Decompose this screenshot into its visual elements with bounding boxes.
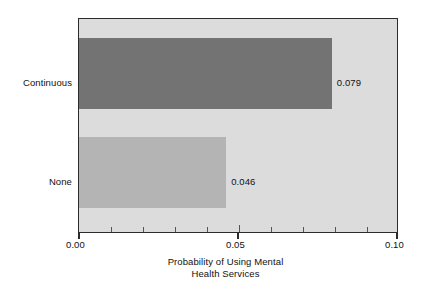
x-tick-label-2: 0.10 <box>385 239 404 250</box>
bar-chart: Continuous None 0.079 0.046 0.00 0.05 0.… <box>0 0 426 290</box>
x-axis-title: Probability of Using Mental Health Servi… <box>113 256 338 279</box>
x-axis-title-line2: Health Services <box>113 268 338 280</box>
x-tick-label-0: 0.00 <box>66 239 85 250</box>
x-axis-inner-ticks <box>79 226 399 232</box>
y-axis-label-none: None <box>49 177 72 187</box>
x-tick-label-1: 0.05 <box>226 239 245 250</box>
bar-none <box>79 137 226 208</box>
y-axis-label-continuous: Continuous <box>23 78 72 88</box>
plot-inner <box>79 19 397 232</box>
x-axis-title-line1: Probability of Using Mental <box>113 256 338 268</box>
bar-continuous <box>79 38 332 109</box>
plot-area <box>78 18 398 233</box>
value-label-none: 0.046 <box>231 177 255 187</box>
value-label-continuous: 0.079 <box>337 78 361 88</box>
